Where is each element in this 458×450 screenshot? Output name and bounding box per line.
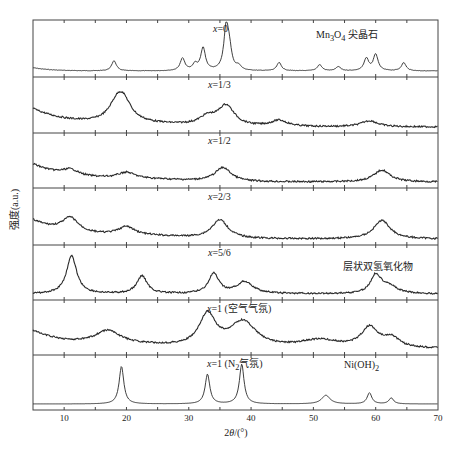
xrd-chart xyxy=(0,0,458,450)
x-tick-label: 60 xyxy=(371,414,380,423)
xrd-trace xyxy=(33,310,438,348)
xrd-trace xyxy=(33,164,438,183)
panel-label: x=1 (空气气氛) xyxy=(207,304,271,314)
x-tick-label: 40 xyxy=(247,414,256,423)
x-tick-label: 70 xyxy=(434,414,443,423)
phase-annotation: 层状双氢氧化物 xyxy=(343,262,413,272)
xrd-trace xyxy=(33,216,438,239)
x-tick-label: 20 xyxy=(122,414,131,423)
x-axis-label: 2θ/(°) xyxy=(224,427,247,438)
panel-label: x=5/6 xyxy=(208,248,231,258)
x-tick-label: 50 xyxy=(309,414,318,423)
panel-label: x=1 (N2气氛) xyxy=(207,359,263,372)
plot-frame xyxy=(33,20,438,410)
xrd-trace xyxy=(33,92,438,128)
x-tick-label: 10 xyxy=(60,414,69,423)
x-tick-label: 30 xyxy=(184,414,193,423)
y-axis-label: 强度(a.u.) xyxy=(6,189,21,230)
panel-label: x=2/3 xyxy=(208,192,231,202)
panel-label: x=0 xyxy=(213,24,228,34)
panel-label: x=1/3 xyxy=(208,80,231,90)
phase-annotation: Mn3O4 尖晶石 xyxy=(316,30,378,43)
phase-annotation: Ni(OH)2 xyxy=(344,360,379,373)
panel-label: x=1/2 xyxy=(208,136,231,146)
